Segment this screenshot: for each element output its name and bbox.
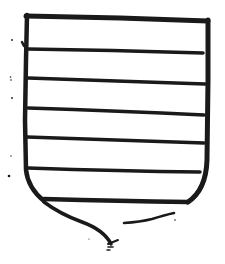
bar-4 [27,137,204,143]
bar-1 [28,49,203,53]
shield-bars [27,49,205,202]
bar-6 [44,199,188,202]
shield-svg [0,0,225,264]
bar-2 [28,78,205,84]
bar-3 [28,108,204,115]
shield-point [44,202,174,250]
bar-5 [28,168,200,172]
